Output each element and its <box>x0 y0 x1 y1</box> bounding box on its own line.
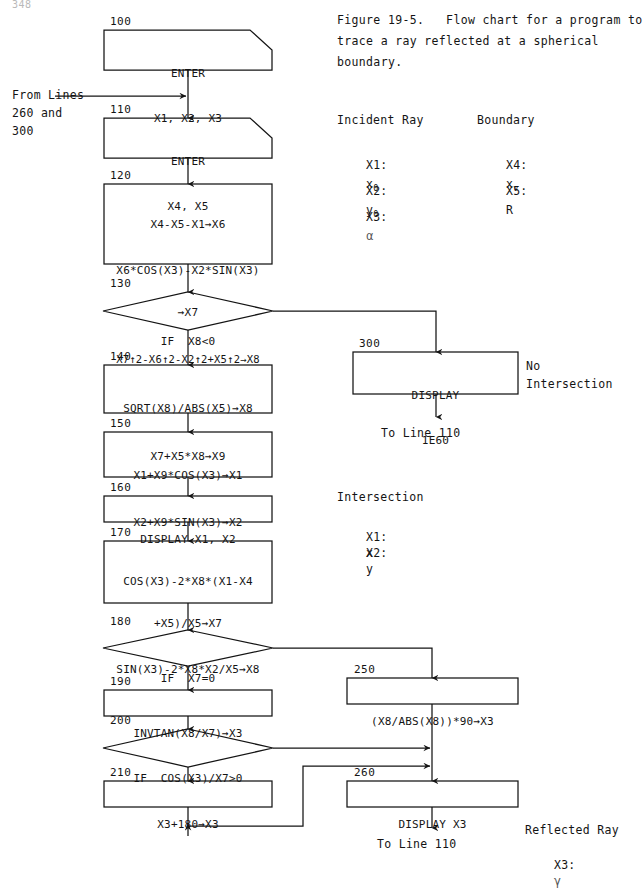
legend-intersection-title: Intersection <box>337 489 424 505</box>
linenum-250: 250 <box>354 663 375 676</box>
legend-reflected-sym-0: γ <box>554 874 561 888</box>
legend-incident-sym-2: α <box>366 229 374 243</box>
n170-line-0: COS(X3)-2*X8*(X1-X4 <box>104 575 272 589</box>
legend-boundary-row-1: X5: R <box>477 163 528 239</box>
figure-caption-line2: trace a ray reflected at a spherical <box>337 31 599 52</box>
n100-line-0: ENTER <box>104 66 272 81</box>
no-intersection-label-line1: No <box>526 357 540 375</box>
n110-line-0: ENTER <box>104 154 272 169</box>
legend-reflected-row-0: X3: γ <box>525 841 576 892</box>
legend-boundary-var-1: X5: <box>506 184 528 198</box>
legend-intersection-row-1: X2: y <box>337 529 388 593</box>
page-number: 348 <box>12 0 32 10</box>
shape-text-n260: DISPLAY X3 <box>347 787 518 862</box>
n180-line-0: IF X7=0 <box>103 671 273 686</box>
n260-line-0: DISPLAY X3 <box>347 817 518 832</box>
linenum-300: 300 <box>359 337 380 350</box>
n160-line-0: DISPLAY X1, X2 <box>104 532 272 547</box>
legend-reflected-var-0: X3: <box>554 858 576 872</box>
n250-line-0: (X8/ABS(X8))*90→X3 <box>347 714 518 729</box>
n190-line-0: INVTAN(X8/X7)→X3 <box>104 726 272 741</box>
entry-label-line1: From Lines <box>12 86 84 104</box>
no-intersection-label-line2: Intersection <box>526 375 613 393</box>
legend-incident-var-2: X3: <box>366 210 388 224</box>
legend-incident-title: Incident Ray <box>337 111 424 130</box>
shape-text-n210: X3+180→X3 <box>104 787 272 862</box>
n120-line-0: X4-X5-X1→X6 <box>100 218 276 232</box>
n120-line-1: X6*COS(X3)-X2*SIN(X3) <box>100 264 276 278</box>
shape-text-n250: (X8/ABS(X8))*90→X3 <box>347 684 518 759</box>
shape-text-n300: DISPLAY 1E60 <box>353 358 518 478</box>
connector-130-300 <box>273 311 436 352</box>
n130-line-0: IF X8<0 <box>103 334 273 349</box>
entry-label-line2: 260 and <box>12 104 63 122</box>
shape-text-n130: IF X8<0 <box>103 304 273 379</box>
legend-boundary-sym-1: R <box>506 203 513 217</box>
n300-line-0: DISPLAY <box>353 388 518 403</box>
n300-line-1: 1E60 <box>353 433 518 448</box>
n200-line-0: IF COS(X3)/X7>0 <box>103 771 273 786</box>
figure-caption-line3: boundary. <box>337 52 402 73</box>
n210-line-0: X3+180→X3 <box>104 817 272 832</box>
linenum-260: 260 <box>354 766 375 779</box>
entry-label-line3: 300 <box>12 122 34 140</box>
figure-caption-line1: Figure 19-5. Flow chart for a program to <box>337 10 643 31</box>
legend-reflected-title: Reflected Ray <box>525 822 619 838</box>
legend-boundary-title: Boundary <box>477 111 535 130</box>
connector-180-250 <box>273 648 432 678</box>
n170-line-1: +X5)/X5→X7 <box>104 617 272 631</box>
linenum-100: 100 <box>110 15 131 28</box>
n140-line-0: SQRT(X8)/ABS(X5)→X8 <box>104 401 272 416</box>
legend-intersection-var-1: X2: <box>366 546 388 560</box>
legend-intersection-sym-1: y <box>366 562 373 576</box>
n150-line-0: X1+X9*COS(X3)→X1 <box>104 468 272 483</box>
legend-incident-row-2: X3: α <box>337 189 388 265</box>
